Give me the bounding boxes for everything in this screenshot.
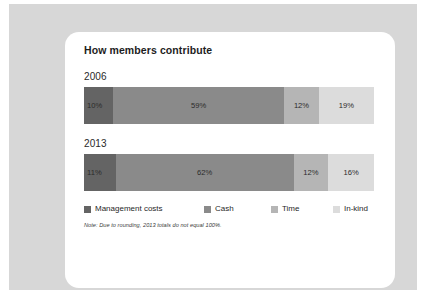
bar-group-label-2006: 2006 — [84, 70, 376, 83]
bar-segment-2006-time: 12% — [284, 87, 319, 124]
bar-segment-2013-cash: 62% — [116, 154, 294, 191]
bar-segment-2013-management-costs: 11% — [84, 154, 116, 191]
chart-legend: Management costs Cash Time In-kind — [84, 204, 376, 214]
legend-item-in-kind: In-kind — [333, 204, 368, 214]
stacked-bar-2013: 11% 62% 12% 16% — [84, 154, 374, 191]
chart-card-content: How members contribute 2006 10% 59% 12% … — [84, 44, 376, 229]
legend-swatch-icon — [271, 206, 278, 213]
bar-segment-value: 10% — [87, 101, 102, 110]
bar-group-2013: 2013 11% 62% 12% 16% — [84, 137, 376, 191]
chart-title: How members contribute — [84, 44, 376, 57]
bar-segment-value: 16% — [343, 168, 358, 177]
legend-label: Management costs — [95, 204, 163, 214]
background-panel: How members contribute 2006 10% 59% 12% … — [9, 4, 417, 290]
bar-segment-2013-in-kind: 16% — [328, 154, 374, 191]
bar-segment-2006-cash: 59% — [113, 87, 284, 124]
bar-segment-value: 12% — [303, 168, 318, 177]
bar-group-label-2013: 2013 — [84, 137, 376, 150]
legend-label: Time — [282, 204, 299, 214]
legend-label: In-kind — [344, 204, 368, 214]
bar-segment-value: 19% — [339, 101, 354, 110]
legend-swatch-icon — [204, 206, 211, 213]
bar-segment-value: 59% — [191, 101, 206, 110]
legend-item-time: Time — [271, 204, 333, 214]
bar-segment-2006-in-kind: 19% — [319, 87, 374, 124]
bar-segment-2006-management-costs: 10% — [84, 87, 113, 124]
legend-item-management-costs: Management costs — [84, 204, 204, 214]
chart-card: How members contribute 2006 10% 59% 12% … — [65, 32, 395, 288]
bar-segment-value: 62% — [197, 168, 212, 177]
legend-label: Cash — [215, 204, 234, 214]
chart-footnote: Note: Due to rounding, 2013 totals do no… — [84, 221, 376, 229]
legend-swatch-icon — [84, 206, 91, 213]
bar-segment-2013-time: 12% — [294, 154, 328, 191]
bar-group-2006: 2006 10% 59% 12% 19% — [84, 70, 376, 124]
legend-swatch-icon — [333, 206, 340, 213]
stacked-bar-2006: 10% 59% 12% 19% — [84, 87, 374, 124]
bar-segment-value: 12% — [294, 101, 309, 110]
legend-item-cash: Cash — [204, 204, 271, 214]
bar-segment-value: 11% — [87, 168, 102, 177]
